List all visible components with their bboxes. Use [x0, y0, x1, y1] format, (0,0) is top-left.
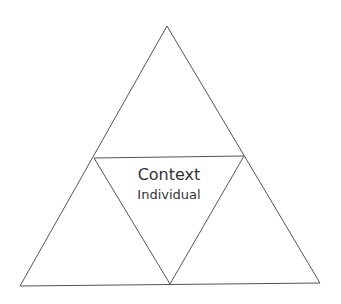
label-individual: Individual — [137, 187, 200, 202]
triangle-diagram: Context Individual — [0, 0, 341, 304]
outer-triangle — [20, 26, 320, 286]
label-context: Context — [138, 165, 201, 184]
